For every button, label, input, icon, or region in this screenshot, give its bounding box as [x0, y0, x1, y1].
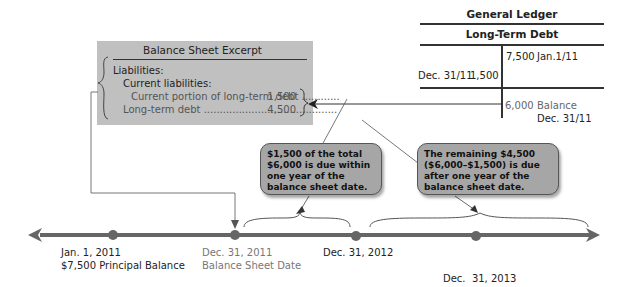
timeline-label-dec-2013: Dec. 31, 2013: [443, 246, 516, 287]
callout-current-portion: $1,500 of the total $6,000 is due within…: [260, 143, 382, 195]
timeline-point-dec-2013: [471, 231, 481, 241]
timeline-point-jan-2011: [108, 230, 118, 240]
timeline-point-dec-2012: [351, 231, 361, 241]
timeline-label-dec-2011: Dec. 31, 2011 Balance Sheet Date: [202, 246, 301, 272]
sheet-to-date-connector: [91, 92, 235, 226]
timeline-date: Dec. 31, 2011: [202, 246, 301, 259]
callout2-pointer-icon: [470, 205, 478, 213]
callout-long-term-portion: The remaining $4,500 ($6,000–$1,500) is …: [417, 143, 559, 195]
timeline-date: Dec. 31, 2013: [443, 272, 516, 285]
timeline-date: Dec. 31, 2012: [323, 246, 393, 259]
timeline-label-dec-2012: Dec. 31, 2012: [323, 246, 393, 259]
left-brace-icon: [98, 57, 108, 119]
timeline-point-dec-2011: [230, 230, 240, 240]
timeline-label-jan-2011: Jan. 1, 2011 $7,500 Principal Balance: [61, 246, 185, 272]
within-one-year-brace-icon: [244, 213, 350, 227]
callout1-pointer-icon: [296, 206, 305, 214]
timeline-date: Jan. 1, 2011: [61, 246, 185, 259]
right-brace-icon: [300, 89, 308, 116]
amount-1500-connector: [322, 99, 347, 145]
timeline-sub: Balance Sheet Date: [202, 259, 301, 272]
after-one-year-brace-icon: [370, 213, 588, 227]
timeline-sub: $7,500 Principal Balance: [61, 259, 185, 272]
timeline-left-arrow-icon: [28, 228, 42, 242]
arrowhead-down-icon: [231, 220, 239, 229]
